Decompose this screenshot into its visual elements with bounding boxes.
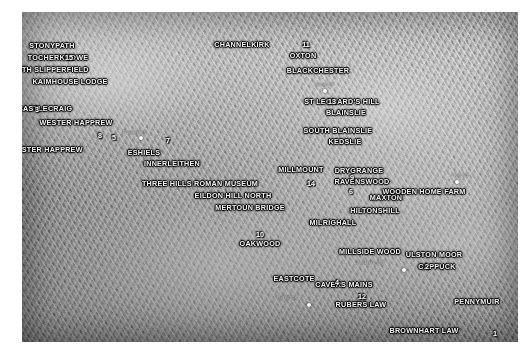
site-label-oakwood: OAKWOOD [240, 240, 281, 247]
site-number-9[interactable]: 9 [350, 174, 354, 181]
town-label-lauder: Lauder [313, 81, 334, 87]
site-label-wooden-home-farm: WOODEN HOME FARM [382, 188, 465, 195]
hawick-marker[interactable] [307, 303, 311, 307]
site-label-eildon-hill-north: EILDON HILL NORTH [195, 192, 272, 199]
site-number-6[interactable]: 6 [349, 188, 353, 195]
site-label-eshiels: ESHIELS [128, 149, 161, 156]
site-label-cavers-mains: CAVERS MAINS [315, 281, 373, 288]
site-label-south-blainslie: SOUTH BLAINSLIE [304, 127, 373, 134]
map-page: PeeblesLauderKelsoHawickJedburgh STONYPA… [0, 0, 521, 356]
site-label-hiltonshill: HILTONSHILL [350, 207, 400, 214]
site-number-10[interactable]: 10 [256, 231, 264, 238]
site-label-stonypath: STONYPATH [29, 42, 74, 49]
site-label-innerleithen: INNERLEITHEN [144, 160, 200, 167]
site-label-three-hills-roman-museum: THREE HILLS ROMAN MUSEUM [142, 180, 258, 187]
kelso-marker[interactable] [455, 180, 459, 184]
site-label-wester-happrew: WESTER HAPPREW [40, 119, 113, 126]
site-label-mertoun-bridge: MERTOUN BRIDGE [215, 204, 285, 211]
site-number-3[interactable]: 3 [35, 106, 39, 113]
site-number-4[interactable]: 4 [335, 279, 339, 286]
site-label-channelkirk: CHANNELKIRK [214, 41, 269, 48]
site-label-rubers-law: RUBERS LAW [336, 301, 387, 308]
site-label-ravenswood: RAVENSWOOD [334, 178, 389, 185]
site-label-blainslie: BLAINSLIE [326, 109, 366, 116]
site-number-2[interactable]: 2 [425, 263, 429, 270]
lauder-marker[interactable] [323, 89, 327, 93]
site-number-8[interactable]: 8 [98, 132, 102, 139]
relief-map-canvas[interactable]: PeeblesLauderKelsoHawickJedburgh STONYPA… [22, 12, 518, 342]
site-label-kedslie: KEDSLIE [329, 138, 362, 145]
site-label-milrighall: MILRIGHALL [310, 219, 357, 226]
site-label-cappuck: CAPPUCK [418, 263, 455, 270]
site-number-7[interactable]: 7 [166, 137, 170, 144]
site-number-15[interactable]: 15 [65, 54, 73, 61]
site-label-oxton: OXTON [290, 52, 317, 59]
terrain-vignette-layer [22, 12, 518, 342]
site-number-5[interactable]: 5 [112, 134, 116, 141]
site-label-ulston-moor: ULSTON MOOR [406, 251, 463, 258]
peebles-marker[interactable] [139, 136, 143, 140]
site-number-11[interactable]: 11 [302, 41, 310, 48]
site-number-1[interactable]: 1 [493, 330, 497, 337]
site-label-north-slipperfield: NORTH SLIPPERFIELD [22, 66, 89, 73]
jedburgh-marker[interactable] [402, 268, 406, 272]
town-label-kelso: Kelso [454, 172, 471, 178]
site-number-14[interactable]: 14 [307, 180, 315, 187]
site-number-12[interactable]: 12 [358, 293, 366, 300]
site-label-kaimhouse-lodge: KAIMHOUSE LODGE [32, 78, 107, 85]
site-label-st-leonard-s-hill: ST LEONARD'S HILL [304, 98, 379, 105]
site-label-tocherknowe: TOCHERKNOWE [28, 54, 89, 61]
site-number-13[interactable]: 13 [328, 98, 336, 105]
town-label-jedburgh: Jedburgh [356, 259, 384, 265]
site-label-millmount: MILLMOUNT [278, 166, 323, 173]
site-label-brownhart-law: BROWNHART LAW [389, 327, 458, 334]
site-label-castlecraig: CASTLECRAIG [22, 105, 72, 112]
site-label-drygrange: DRYGRANGE [335, 167, 384, 174]
site-label-blackchester: BLACKCHESTER [287, 67, 350, 74]
site-label-eastcote: EASTCOTE [273, 275, 314, 282]
site-label-millside-wood: MILLSIDE WOOD [339, 248, 401, 255]
site-label-pennymuir: PENNYMUIR [454, 298, 499, 305]
site-label-easter-happrew: EASTER HAPPREW [22, 146, 83, 153]
town-label-hawick: Hawick [276, 294, 298, 300]
town-label-peebles: Peebles [123, 129, 147, 135]
